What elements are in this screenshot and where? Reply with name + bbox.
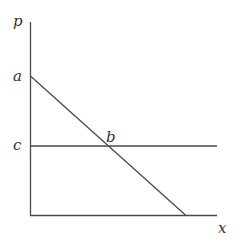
label-c: c bbox=[13, 136, 22, 154]
label-a: a bbox=[13, 67, 22, 85]
label-b: b bbox=[106, 128, 116, 146]
y-axis-label: p bbox=[13, 12, 23, 30]
diagram-canvas: p a c b x bbox=[0, 0, 235, 243]
x-axis-label: x bbox=[218, 219, 227, 237]
